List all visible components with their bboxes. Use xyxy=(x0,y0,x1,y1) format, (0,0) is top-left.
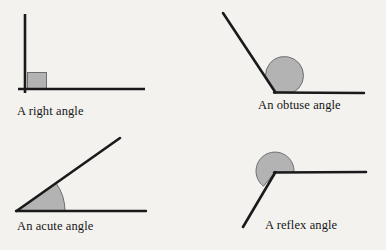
caption-obtuse-angle: An obtuse angle xyxy=(258,98,341,112)
figure-acute-angle xyxy=(16,138,146,211)
figure-obtuse-angle xyxy=(223,13,364,93)
angles-diagram: A right angle An obtuse angle An acute a… xyxy=(0,0,386,250)
reflex-angle-sector-marker xyxy=(256,152,294,186)
angles-figure-canvas xyxy=(0,0,386,250)
caption-right-angle: A right angle xyxy=(17,104,84,118)
acute-angle-upper-right-ray xyxy=(17,138,121,211)
figure-reflex-angle xyxy=(243,152,366,227)
reflex-angle-horizontal-ray xyxy=(274,172,366,173)
right-angle-square-marker xyxy=(28,73,47,90)
obtuse-angle-horizontal-ray xyxy=(274,93,364,94)
caption-acute-angle: An acute angle xyxy=(17,219,93,233)
figure-right-angle xyxy=(18,14,145,93)
obtuse-angle-upper-left-ray xyxy=(223,13,276,93)
caption-reflex-angle: A reflex angle xyxy=(265,218,337,232)
